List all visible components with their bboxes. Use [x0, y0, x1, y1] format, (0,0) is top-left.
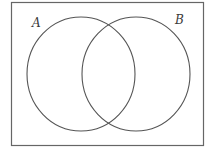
set-a-label: A	[31, 16, 41, 30]
set-b-label: B	[174, 13, 184, 27]
venn-diagram: A B	[0, 0, 210, 155]
